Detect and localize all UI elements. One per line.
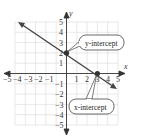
x-intercept-label: x-intercept bbox=[74, 103, 107, 112]
svg-text:−2: −2 bbox=[55, 90, 64, 99]
svg-text:−3: −3 bbox=[24, 75, 33, 84]
axes bbox=[4, 12, 125, 135]
y-intercept-callout: y-intercept bbox=[68, 35, 125, 52]
svg-text:1: 1 bbox=[75, 75, 79, 84]
y-axis-label: y bbox=[68, 9, 73, 18]
y-intercept-label: y-intercept bbox=[85, 39, 118, 48]
svg-text:3: 3 bbox=[59, 39, 63, 48]
svg-text:1: 1 bbox=[59, 59, 63, 68]
x-intercept-point bbox=[95, 71, 100, 76]
svg-text:−3: −3 bbox=[55, 101, 64, 110]
svg-text:−5: −5 bbox=[3, 75, 12, 84]
svg-text:5: 5 bbox=[116, 75, 120, 84]
coordinate-plane: x y −5 −4 −3 −2 −1 1 2 3 4 5 5 4 3 2 1 −… bbox=[0, 0, 141, 137]
svg-text:−1: −1 bbox=[55, 80, 64, 89]
svg-text:−5: −5 bbox=[55, 121, 64, 130]
svg-text:−4: −4 bbox=[13, 75, 22, 84]
line-arrow-upper-left-icon bbox=[18, 22, 25, 28]
y-axis-arrow-down-icon bbox=[64, 129, 69, 135]
svg-text:−1: −1 bbox=[45, 75, 54, 84]
x-axis-label: x bbox=[123, 62, 128, 71]
svg-text:−4: −4 bbox=[55, 111, 64, 120]
svg-text:2: 2 bbox=[85, 75, 89, 84]
svg-text:−2: −2 bbox=[34, 75, 43, 84]
svg-text:5: 5 bbox=[59, 18, 63, 27]
svg-text:4: 4 bbox=[59, 28, 63, 37]
